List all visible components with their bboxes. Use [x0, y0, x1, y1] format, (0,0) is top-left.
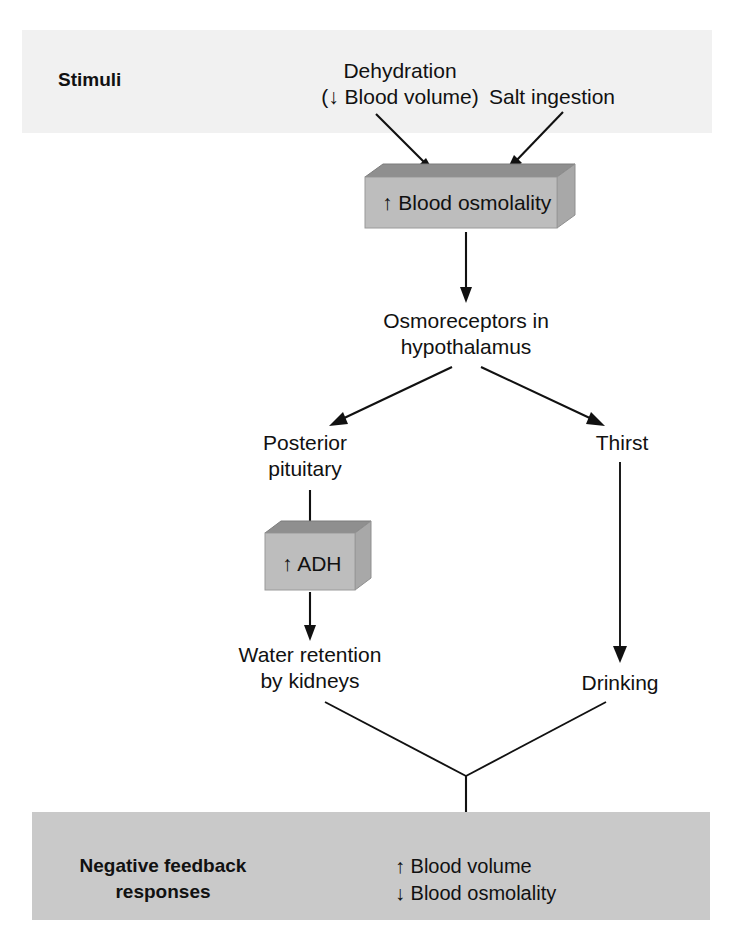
- posterior-pituitary-label-line2: pituitary: [268, 457, 342, 480]
- converge-junction-lines: [325, 702, 606, 776]
- salt-ingestion-label: Salt ingestion: [489, 85, 615, 108]
- drinking-label: Drinking: [581, 671, 658, 694]
- arrow-osmolality-to-osmoreceptors: [460, 232, 472, 303]
- adh-box-label: ↑ ADH: [282, 552, 342, 575]
- stimuli-band-label: Stimuli: [58, 69, 121, 90]
- water-retention-label-line2: by kidneys: [260, 669, 359, 692]
- negative-feedback-band-label-line2: responses: [115, 881, 210, 902]
- arrow-osmoreceptors-to-pituitary: [329, 367, 452, 426]
- blood-osmolality-box-label: ↑ Blood osmolality: [382, 191, 552, 214]
- thirst-label: Thirst: [596, 431, 649, 454]
- blood-osmolality-box: ↑ Blood osmolality: [365, 164, 575, 228]
- flowchart-canvas: Stimuli Dehydration (↓ Blood volume) Sal…: [0, 0, 743, 933]
- arrow-osmoreceptors-to-thirst: [481, 367, 605, 426]
- osmoreceptors-label-line2: hypothalamus: [401, 335, 532, 358]
- outcome-blood-osmolality-label: ↓ Blood osmolality: [395, 882, 556, 904]
- posterior-pituitary-label-line1: Posterior: [263, 431, 347, 454]
- physiology-flowchart-figure: Stimuli Dehydration (↓ Blood volume) Sal…: [0, 0, 743, 933]
- osmoreceptors-label-line1: Osmoreceptors in: [383, 309, 549, 332]
- arrow-thirst-to-drinking: [613, 462, 627, 663]
- arrow-adh-to-water-retention: [304, 592, 316, 641]
- outcome-blood-volume-label: ↑ Blood volume: [395, 855, 532, 877]
- negative-feedback-band-label-line1: Negative feedback: [80, 855, 247, 876]
- dehydration-label-line1: Dehydration: [343, 59, 456, 82]
- dehydration-label-line2: (↓ Blood volume): [321, 85, 479, 108]
- adh-box: ↑ ADH: [265, 521, 371, 590]
- water-retention-label-line1: Water retention: [239, 643, 382, 666]
